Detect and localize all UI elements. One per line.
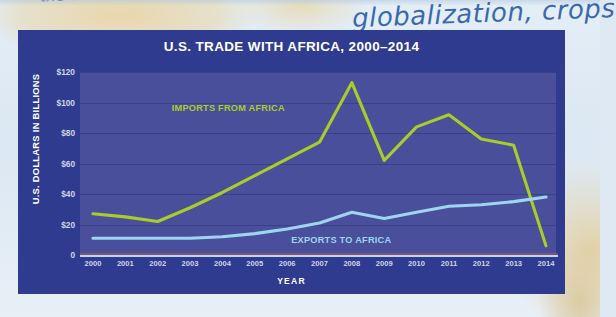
x-axis-tick-label: 2000 [85, 259, 102, 268]
x-axis-line [80, 255, 558, 257]
y-axis-tick-label: $120 [57, 67, 75, 77]
y-axis-tick-label: $100 [57, 98, 75, 108]
x-axis-tick-label: 2001 [117, 259, 134, 268]
y-axis-tick-label: $20 [61, 220, 75, 230]
x-axis-tick-label: 2002 [149, 259, 166, 268]
x-axis-tick-label: 2007 [311, 259, 328, 268]
x-axis-tick-label: 2003 [182, 259, 199, 268]
series-lines [80, 72, 556, 255]
chart-title: U.S. TRADE WITH AFRICA, 2000–2014 [18, 39, 565, 54]
y-axis-title: U.S. DOLLARS IN BILLIONS [31, 59, 41, 219]
chart-panel: U.S. TRADE WITH AFRICA, 2000–2014 U.S. D… [18, 30, 565, 294]
x-axis-tick-label: 2004 [214, 259, 231, 268]
x-axis-tick-label: 2009 [376, 259, 393, 268]
x-axis-tick-label: 2014 [538, 259, 555, 268]
x-axis-tick-label: 2008 [343, 259, 360, 268]
y-axis-tick-label: 0 [70, 250, 75, 260]
series-label-imports: IMPORTS FROM AFRICA [172, 103, 285, 113]
x-axis-tick-label: 2011 [441, 259, 457, 268]
x-axis-tick-label: 2013 [505, 259, 522, 268]
x-axis-tick-label: 2006 [279, 259, 296, 268]
series-line [93, 197, 546, 238]
y-axis-tick-label: $60 [61, 159, 75, 169]
x-axis-tick-label: 2012 [473, 259, 490, 268]
x-axis-tick-label: 2005 [246, 259, 263, 268]
series-label-exports: EXPORTS TO AFRICA [291, 235, 391, 245]
y-axis-tick-label: $80 [61, 128, 75, 138]
x-axis-tick-label: 2010 [408, 259, 425, 268]
plot-area: 0$20$40$60$80$100$120 IMPORTS FROM AFRIC… [80, 72, 556, 255]
y-axis-tick-label: $40 [61, 189, 75, 199]
x-axis-title: YEAR [18, 276, 565, 286]
